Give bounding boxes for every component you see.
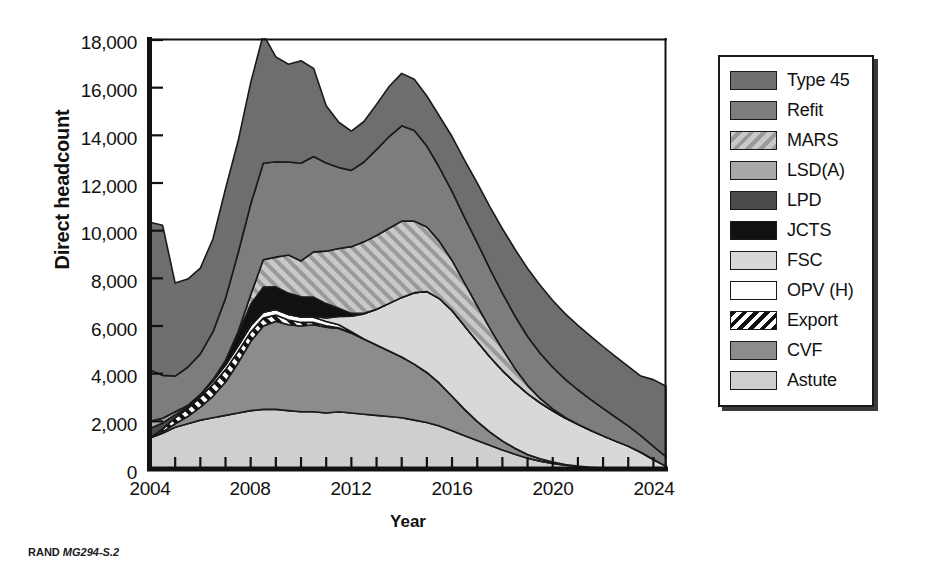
legend-item[interactable]: FSC bbox=[730, 245, 854, 275]
legend-swatch-icon bbox=[730, 251, 777, 270]
legend-item[interactable]: Type 45 bbox=[730, 65, 854, 95]
legend-item[interactable]: JCTS bbox=[730, 215, 854, 245]
legend-item-label: FSC bbox=[787, 250, 822, 271]
series-layer bbox=[150, 35, 666, 469]
figure-caption: RAND MG294-S.2 bbox=[28, 546, 119, 558]
legend-swatch-icon bbox=[730, 71, 777, 90]
legend-item-label: MARS bbox=[787, 130, 838, 151]
legend-item-label: JCTS bbox=[787, 220, 831, 241]
legend-item-label: OPV (H) bbox=[787, 280, 854, 301]
legend-item[interactable]: LPD bbox=[730, 185, 854, 215]
legend-swatch-icon bbox=[730, 311, 777, 330]
figure-container: Direct headcount 0 2,000 4,000 6,000 8,0… bbox=[0, 0, 927, 579]
legend-item-label: Export bbox=[787, 310, 838, 331]
legend-item-label: Astute bbox=[787, 370, 837, 391]
legend-swatch-icon bbox=[730, 131, 777, 150]
legend-item[interactable]: LSD(A) bbox=[730, 155, 854, 185]
legend-item-list: Type 45RefitMARSLSD(A)LPDJCTSFSCOPV (H)E… bbox=[730, 65, 854, 395]
legend-swatch-icon bbox=[730, 161, 777, 180]
caption-code: MG294-S.2 bbox=[63, 546, 119, 558]
caption-source: RAND bbox=[28, 546, 60, 558]
legend-item-label: LSD(A) bbox=[787, 160, 845, 181]
legend-item[interactable]: OPV (H) bbox=[730, 275, 854, 305]
legend-item[interactable]: Astute bbox=[730, 365, 854, 395]
legend-item-label: Type 45 bbox=[787, 70, 850, 91]
chart-legend: Type 45RefitMARSLSD(A)LPDJCTSFSCOPV (H)E… bbox=[718, 55, 874, 407]
legend-item[interactable]: MARS bbox=[730, 125, 854, 155]
legend-swatch-icon bbox=[730, 191, 777, 210]
legend-swatch-icon bbox=[730, 221, 777, 240]
legend-swatch-icon bbox=[730, 371, 777, 390]
legend-item-label: CVF bbox=[787, 340, 822, 361]
legend-swatch-icon bbox=[730, 341, 777, 360]
legend-item[interactable]: Export bbox=[730, 305, 854, 335]
legend-item-label: LPD bbox=[787, 190, 821, 211]
legend-swatch-icon bbox=[730, 281, 777, 300]
legend-item[interactable]: Refit bbox=[730, 95, 854, 125]
legend-swatch-icon bbox=[730, 101, 777, 120]
legend-item[interactable]: CVF bbox=[730, 335, 854, 365]
legend-item-label: Refit bbox=[787, 100, 823, 121]
